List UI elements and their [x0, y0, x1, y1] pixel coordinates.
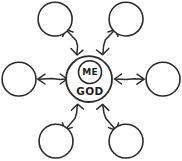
connection-line: [66, 105, 78, 130]
node-top-left[interactable]: [38, 2, 72, 36]
connection-left[interactable]: [38, 74, 67, 84]
connection-line: [103, 30, 115, 53]
god-label: GOD: [76, 85, 103, 97]
diagram-canvas: ME GOD: [0, 0, 182, 161]
node-bottom-left[interactable]: [39, 124, 73, 158]
hub-and-spoke-diagram: ME GOD: [0, 0, 182, 161]
connection-line: [103, 105, 116, 130]
node-top-right[interactable]: [109, 2, 143, 36]
connection-right[interactable]: [114, 74, 144, 84]
node-left[interactable]: [2, 62, 36, 96]
connection-top-left[interactable]: [63, 30, 83, 55]
connection-bottom-left[interactable]: [62, 104, 83, 130]
center-node[interactable]: ME GOD: [66, 56, 112, 102]
connection-bottom-right[interactable]: [97, 104, 119, 130]
me-label: ME: [82, 67, 98, 77]
connection-line: [39, 79, 67, 80]
connection-top-right[interactable]: [97, 30, 118, 55]
connection-line: [115, 79, 144, 80]
node-right[interactable]: [146, 62, 180, 96]
node-bottom-right[interactable]: [109, 124, 143, 158]
